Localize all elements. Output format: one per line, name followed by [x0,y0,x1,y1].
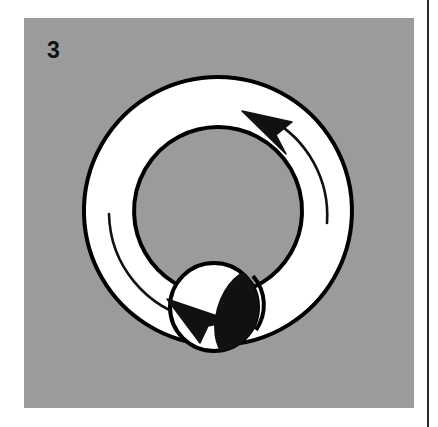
figure-number-label: 3 [47,39,60,62]
figure-page: 3 [0,0,438,427]
rotation-diagram [24,18,414,408]
page-divider [427,0,429,427]
figure-panel: 3 [24,18,414,408]
